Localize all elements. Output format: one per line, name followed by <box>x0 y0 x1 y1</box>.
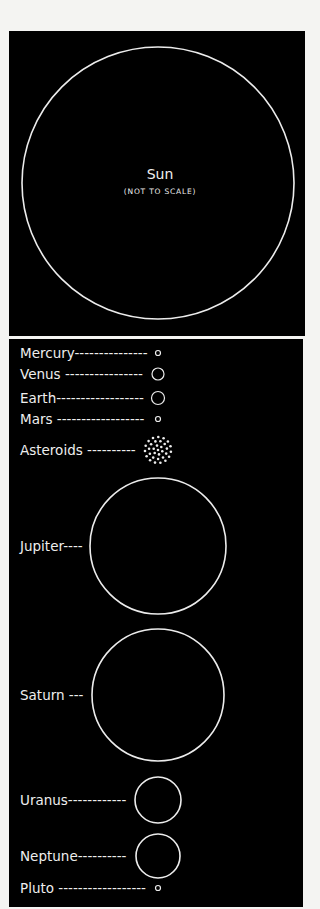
planet-label-jupiter: Jupiter---- <box>20 538 83 554</box>
jupiter-circle <box>90 478 226 614</box>
planet-label-venus: Venus ---------------- <box>20 366 143 382</box>
mercury-circle <box>156 351 161 356</box>
venus-circle <box>152 368 164 380</box>
uranus-circle <box>135 777 181 823</box>
planet-label-neptune: Neptune---------- <box>20 848 126 864</box>
pluto-circle <box>156 886 161 891</box>
planet-label-mars: Mars ------------------ <box>20 411 145 427</box>
asteroid-cluster-icon <box>144 436 173 464</box>
planet-label-earth: Earth------------------ <box>20 390 144 406</box>
planet-label-pluto: Pluto ------------------ <box>20 880 146 896</box>
asteroids-label: Asteroids ---------- <box>20 442 136 458</box>
mars-circle <box>156 417 161 422</box>
planet-label-uranus: Uranus------------ <box>20 792 126 808</box>
neptune-circle <box>136 834 180 878</box>
saturn-circle <box>92 629 224 761</box>
planet-label-mercury: Mercury--------------- <box>20 345 148 361</box>
sun-circle <box>22 47 294 319</box>
scale-note: (NOT TO SCALE) <box>0 187 320 196</box>
earth-circle <box>152 392 165 405</box>
planet-label-saturn: Saturn --- <box>20 687 83 703</box>
sun-label: Sun <box>0 166 320 182</box>
